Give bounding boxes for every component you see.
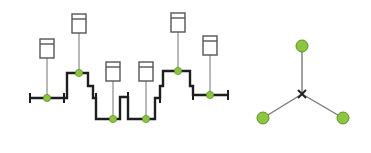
device-box-1: [40, 39, 54, 58]
star-node-top: [296, 40, 308, 52]
device-box-3: [106, 62, 120, 81]
node-2: [75, 69, 82, 76]
star-topology: [257, 40, 349, 124]
star-nodes: [257, 40, 349, 124]
bus-topology: [30, 13, 228, 123]
star-node-right: [337, 112, 349, 124]
device-box-5: [171, 13, 185, 32]
node-1: [43, 94, 50, 101]
device-box-6: [203, 36, 217, 55]
device-box-4: [139, 62, 153, 81]
star-lines: [263, 46, 343, 118]
star-node-left: [257, 112, 269, 124]
node-4: [142, 115, 149, 122]
node-6: [206, 91, 213, 98]
topology-diagram: [0, 0, 371, 153]
node-3: [109, 115, 116, 122]
device-box-2: [72, 14, 86, 33]
bus-terminators: [30, 90, 228, 103]
node-5: [174, 67, 181, 74]
